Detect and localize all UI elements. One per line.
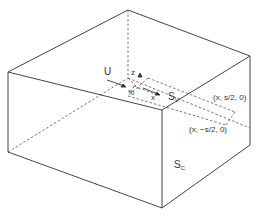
label-point-minus: (x, −s/2, 0) (189, 126, 227, 134)
hidden-edge-bottom-right (128, 78, 250, 128)
label-x: x (151, 94, 155, 102)
z-arrow-head (138, 73, 142, 77)
edge-bottom-front-right (162, 145, 250, 208)
hidden-edge-bottom-left (8, 78, 128, 152)
x-arrow-head (155, 92, 160, 95)
label-z: z (131, 69, 135, 77)
u-arrow-line (107, 80, 124, 86)
sv-edge-right (226, 112, 235, 125)
label-sv: SV (168, 92, 179, 103)
label-s0: s0 (128, 88, 134, 96)
control-volume-diagram: U z s0 x SV (x, s/2, 0) (x, −s/2, 0) SC (0, 0, 257, 216)
label-sc: SC (174, 160, 185, 171)
edge-top-back-right (128, 10, 250, 56)
u-arrow-head (121, 84, 126, 87)
edge-top-back-left (8, 10, 128, 72)
edge-bottom-front-left (8, 152, 162, 208)
label-u: U (104, 67, 111, 77)
box-drawing (0, 0, 257, 216)
label-point-plus: (x, s/2, 0) (213, 94, 246, 102)
